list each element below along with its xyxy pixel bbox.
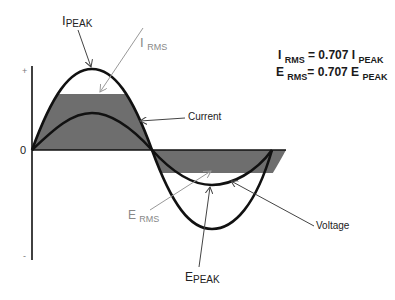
e-peak-label: EPEAK	[185, 271, 220, 285]
sine-wave-diagram	[0, 0, 395, 300]
axis-zero-label: 0	[20, 145, 26, 156]
equation-voltage: E RMS= 0.707 E PEAK	[276, 66, 387, 82]
i-peak-arrow	[78, 30, 91, 67]
i-rms-label: I RMS	[140, 36, 167, 52]
e-rms-label: E RMS	[128, 209, 159, 224]
i-rms-arrow	[100, 28, 143, 92]
axis-minus-label: -	[23, 252, 26, 261]
axis-plus-label: +	[22, 67, 27, 76]
voltage-arrow	[231, 181, 314, 226]
current-label: Current	[188, 112, 221, 122]
equation-current: I RMS = 0.707 I PEAK	[278, 49, 383, 65]
i-peak-label: IPEAK	[62, 14, 92, 29]
voltage-label: Voltage	[316, 221, 349, 231]
e-rms-arrow	[150, 171, 211, 210]
current-arrow	[140, 118, 185, 121]
